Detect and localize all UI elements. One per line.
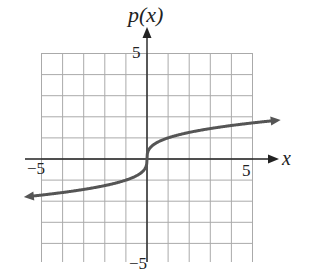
x-tick-max: 5 xyxy=(242,161,251,181)
y-tick-max: 5 xyxy=(132,43,141,63)
x-tick-min: −5 xyxy=(27,159,45,179)
x-axis-label: x xyxy=(282,147,291,170)
y-tick-min: −5 xyxy=(129,254,147,273)
y-axis-label: p(x) xyxy=(128,2,163,28)
